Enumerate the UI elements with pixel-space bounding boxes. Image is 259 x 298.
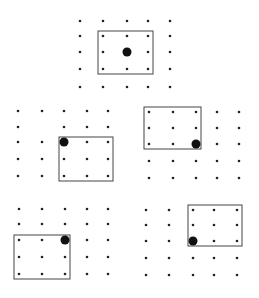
grid-dot: [79, 68, 82, 71]
grid-dot: [213, 257, 216, 260]
grid-dot: [238, 143, 241, 146]
grid-dot: [107, 141, 110, 144]
grid-dot: [126, 35, 129, 38]
grid-dot: [64, 256, 67, 259]
grid-dot: [147, 20, 150, 23]
grid-dot: [169, 20, 172, 23]
panel-bottom-left: [14, 208, 109, 279]
grid-dot: [64, 273, 67, 276]
grid-dot: [192, 209, 195, 212]
grid-dot: [126, 68, 129, 71]
grid-dot: [41, 256, 44, 259]
grid-dot: [64, 208, 67, 211]
grid-dot: [17, 110, 20, 113]
grid-dot: [86, 223, 89, 226]
grid-dot: [18, 273, 21, 276]
grid-dot: [41, 223, 44, 226]
grid-dot: [107, 126, 110, 129]
grid-dot: [18, 208, 21, 211]
grid-dot: [64, 223, 67, 226]
grid-dot: [102, 68, 105, 71]
grid-dot: [216, 177, 219, 180]
grid-dot: [86, 208, 89, 211]
grid-dot: [148, 160, 151, 163]
grid-dot: [169, 35, 172, 38]
grid-dot: [79, 51, 82, 54]
grid-dot: [41, 158, 44, 161]
grid-dot: [145, 257, 148, 260]
grid-dot: [41, 273, 44, 276]
grid-dot: [18, 223, 21, 226]
grid-dot: [79, 20, 82, 23]
grid-dot: [172, 111, 175, 114]
grid-dot: [192, 224, 195, 227]
grid-dot: [145, 209, 148, 212]
grid-dot: [102, 86, 105, 89]
grid-dot: [107, 239, 110, 242]
grid-dot: [168, 240, 171, 243]
grid-dot: [148, 143, 151, 146]
grid-dot: [145, 274, 148, 277]
grid-dot: [169, 86, 172, 89]
grid-dot: [86, 175, 89, 178]
grid-dot: [86, 158, 89, 161]
grid-dot: [216, 111, 219, 114]
highlighted-dot: [123, 48, 132, 57]
grid-dot: [17, 175, 20, 178]
grid-dot: [17, 158, 20, 161]
grid-dot: [41, 208, 44, 211]
grid-dot: [213, 224, 216, 227]
grid-dot: [192, 274, 195, 277]
grid-dot: [17, 141, 20, 144]
grid-dot: [107, 223, 110, 226]
grid-dot: [147, 68, 150, 71]
grid-dot: [213, 240, 216, 243]
grid-dot: [147, 35, 150, 38]
grid-dot: [107, 158, 110, 161]
grid-dot: [195, 177, 198, 180]
grid-dot: [238, 111, 241, 114]
grid-dot: [238, 127, 241, 130]
grid-dot: [145, 240, 148, 243]
grid-dot: [236, 224, 239, 227]
grid-dot: [18, 256, 21, 259]
grid-dot: [86, 256, 89, 259]
grid-dot: [41, 110, 44, 113]
grid-dot: [107, 256, 110, 259]
grid-dot: [41, 239, 44, 242]
grid-dot: [172, 143, 175, 146]
grid-dot: [213, 209, 216, 212]
grid-dot: [17, 126, 20, 129]
grid-dot: [195, 111, 198, 114]
grid-dot: [145, 224, 148, 227]
grid-dot: [107, 208, 110, 211]
grid-dot: [148, 127, 151, 130]
grid-dot: [236, 209, 239, 212]
grid-dot: [18, 239, 21, 242]
grid-dot: [63, 175, 66, 178]
highlighted-dot: [192, 140, 201, 149]
grid-dot: [238, 160, 241, 163]
grid-dot: [107, 175, 110, 178]
grid-dot: [147, 86, 150, 89]
highlighted-dot: [189, 237, 198, 246]
grid-dot: [102, 51, 105, 54]
grid-dot: [195, 160, 198, 163]
grid-dot: [86, 141, 89, 144]
grid-dot: [102, 35, 105, 38]
grid-dot: [172, 160, 175, 163]
grid-dot: [41, 141, 44, 144]
grid-dot: [107, 273, 110, 276]
grid-dot: [216, 143, 219, 146]
grid-dot: [79, 35, 82, 38]
grid-dot: [236, 240, 239, 243]
grid-dot: [86, 239, 89, 242]
grid-dot: [63, 110, 66, 113]
grid-dot: [86, 110, 89, 113]
grid-dot: [63, 126, 66, 129]
grid-dot: [216, 127, 219, 130]
grid-dot: [169, 51, 172, 54]
grid-dot: [238, 177, 241, 180]
highlighted-dot: [61, 236, 70, 245]
grid-dot: [107, 110, 110, 113]
